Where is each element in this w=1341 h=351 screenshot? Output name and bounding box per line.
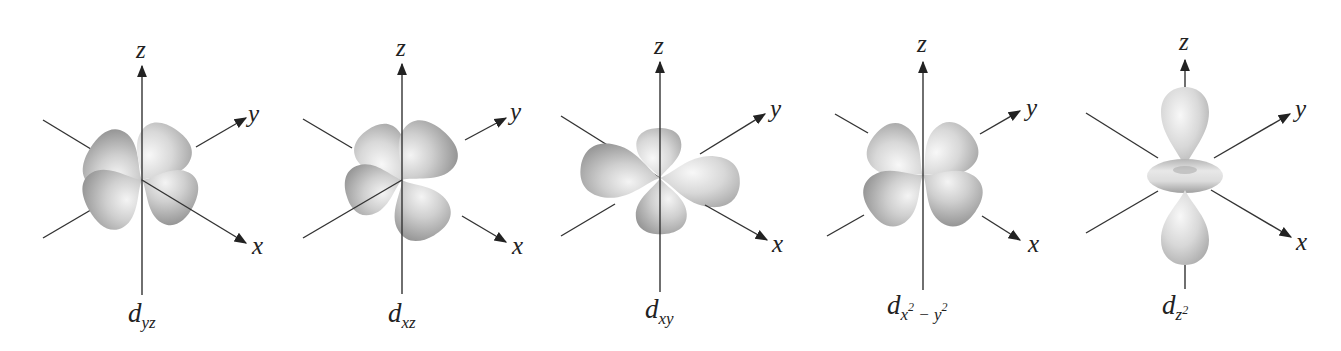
- z-axis-label: z: [395, 34, 406, 61]
- lobe-top: [1161, 87, 1209, 168]
- orbital-panel-dyz: z y x dyz: [43, 36, 263, 332]
- y-axis: [196, 118, 246, 147]
- y-axis-label: y: [245, 100, 260, 127]
- z-axis-label: z: [1178, 28, 1189, 55]
- orbital-panel-dz2: z y x dz2: [1086, 28, 1307, 324]
- orbital-panel-dx2-y2: z y x dx2 − y2: [827, 30, 1039, 324]
- y-axis-label: y: [507, 98, 522, 125]
- x-axis: [705, 205, 767, 240]
- y-axis-label: y: [767, 95, 782, 122]
- x-axis-label: x: [251, 232, 263, 259]
- orbital-label-dxy: dxy: [645, 294, 674, 328]
- x-axis: [462, 216, 506, 242]
- axis-line-back-left-lower: [827, 215, 864, 236]
- torus-hole: [1173, 166, 1197, 174]
- x-axis: [982, 216, 1020, 240]
- orbital-label-dz2: dz2: [1162, 290, 1188, 324]
- orbital-label-dx2-y2: dx2 − y2: [887, 290, 948, 324]
- x-axis-label: x: [1295, 228, 1307, 255]
- axis-line-back-left-upper: [303, 119, 352, 148]
- d-orbitals-figure: z y x dyz z y x dxz: [0, 0, 1341, 351]
- z-axis-label: z: [135, 36, 146, 63]
- x-axis-label: x: [771, 230, 783, 257]
- y-axis: [1214, 114, 1290, 158]
- axis-line-back-left-upper: [835, 114, 868, 133]
- orbital-label-dxz: dxz: [388, 298, 416, 332]
- y-axis: [465, 118, 506, 140]
- orbital-label-dyz: dyz: [128, 298, 156, 332]
- lobe-bottom: [1161, 190, 1209, 265]
- x-axis: [1211, 190, 1291, 237]
- axis-line-back-left-lower: [1086, 191, 1158, 233]
- y-axis-label: y: [1292, 95, 1307, 122]
- y-axis-label: y: [1023, 94, 1038, 121]
- axis-line-back-left-lower: [561, 204, 615, 236]
- y-axis: [980, 111, 1020, 134]
- torus: [1147, 159, 1223, 193]
- x-axis-label: x: [511, 232, 523, 259]
- orbital-panel-dxz: z y x dxz: [303, 34, 523, 332]
- axis-line-back-left-upper: [1086, 113, 1158, 158]
- orbital-lobes: [340, 111, 468, 250]
- z-axis-label: z: [916, 30, 927, 57]
- y-axis: [700, 114, 765, 154]
- orbital-lobes: [74, 114, 207, 238]
- x-axis-label: x: [1027, 230, 1039, 257]
- orbital-panel-dxy: z y x dxy: [561, 32, 783, 328]
- z-axis-label: z: [653, 32, 664, 59]
- orbital-lobes: [1147, 87, 1223, 265]
